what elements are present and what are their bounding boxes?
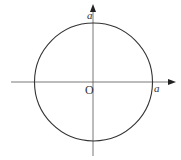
top-intercept-label: a [87,10,93,21]
right-intercept-label: a [154,83,160,94]
origin-label: O [85,84,94,96]
circle-diagram: a a O [0,0,181,160]
x-axis-arrow-icon [168,79,176,85]
diagram-canvas [0,0,181,160]
y-axis [90,4,96,156]
